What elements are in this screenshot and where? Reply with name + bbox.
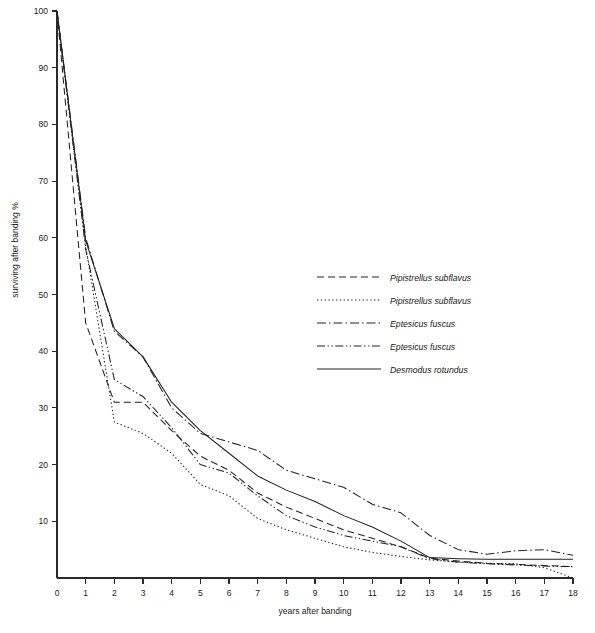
x-tick-label-0: 0: [55, 588, 60, 598]
x-tick-label-18: 18: [568, 588, 578, 598]
x-tick-label-14: 14: [454, 588, 464, 598]
series-line-3: [57, 11, 573, 567]
x-tick-label-7: 7: [255, 588, 260, 598]
series-line-2: [57, 11, 573, 555]
x-tick-label-8: 8: [284, 588, 289, 598]
y-tick-label-40: 40: [39, 346, 49, 356]
x-tick-label-2: 2: [112, 588, 117, 598]
x-tick-label-11: 11: [368, 588, 377, 598]
chart-canvas: 102030405060708090100 012345678910111213…: [0, 0, 595, 633]
y-axis-ticks: 102030405060708090100: [34, 6, 57, 526]
x-tick-label-3: 3: [141, 588, 146, 598]
legend-label-2: Eptesicus fuscus: [390, 319, 456, 329]
x-tick-label-10: 10: [339, 588, 349, 598]
x-tick-label-4: 4: [169, 588, 174, 598]
y-tick-label-80: 80: [39, 119, 49, 129]
y-tick-label-60: 60: [39, 233, 49, 243]
legend-label-0: Pipistrellus subflavus: [390, 273, 472, 283]
y-tick-label-50: 50: [39, 290, 49, 300]
legend-label-1: Pipistrellus subflavus: [390, 296, 472, 306]
x-tick-label-1: 1: [83, 588, 88, 598]
x-tick-label-13: 13: [425, 588, 435, 598]
series-line-0: [57, 11, 573, 567]
x-tick-label-15: 15: [482, 588, 492, 598]
x-tick-label-9: 9: [313, 588, 318, 598]
y-tick-label-20: 20: [39, 460, 49, 470]
survival-curve-chart: 102030405060708090100 012345678910111213…: [0, 0, 595, 633]
x-tick-label-6: 6: [227, 588, 232, 598]
x-tick-label-12: 12: [396, 588, 406, 598]
y-tick-label-70: 70: [39, 176, 49, 186]
x-tick-label-16: 16: [511, 588, 521, 598]
x-tick-label-17: 17: [540, 588, 550, 598]
y-tick-label-30: 30: [39, 403, 49, 413]
y-tick-label-100: 100: [34, 6, 48, 16]
legend-label-3: Eptesicus fuscus: [390, 342, 456, 352]
x-axis-ticks: 0123456789101112131415161718: [55, 578, 578, 598]
chart-legend: Pipistrellus subflavusPipistrellus subfl…: [317, 273, 472, 375]
x-axis-title: years after banding: [279, 606, 352, 616]
series-lines: [57, 11, 573, 578]
series-line-1: [57, 11, 573, 578]
y-tick-label-90: 90: [39, 63, 49, 73]
x-tick-label-5: 5: [198, 588, 203, 598]
y-axis-title: surviving after banding %: [10, 202, 20, 298]
legend-label-4: Desmodus rotundus: [390, 365, 468, 375]
y-tick-label-10: 10: [39, 516, 49, 526]
series-line-4: [57, 11, 573, 559]
